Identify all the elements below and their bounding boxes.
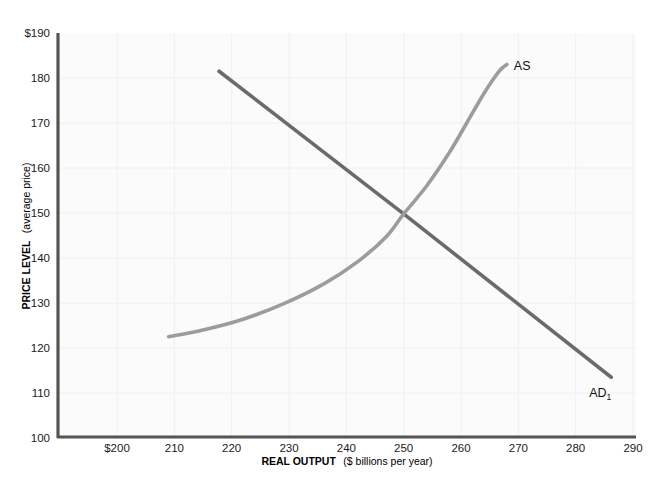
x-tick-label: 280 <box>566 442 585 454</box>
x-tick-label: 290 <box>623 442 642 454</box>
x-tick-label: 220 <box>222 442 241 454</box>
y-tick-label: 100 <box>31 432 50 444</box>
x-tick-label: 210 <box>165 442 184 454</box>
x-tick-label: 230 <box>279 442 298 454</box>
y-tick-label: 120 <box>31 342 50 354</box>
y-tick-label: 130 <box>31 297 50 309</box>
plot-area-background <box>58 33 636 438</box>
y-tick-label: 180 <box>31 72 50 84</box>
x-tick-label: $200 <box>104 442 130 454</box>
x-tick-label: 250 <box>394 442 413 454</box>
chart-figure: $200210220230240250260270280290 10011012… <box>0 0 671 492</box>
x-tick-label: 270 <box>509 442 528 454</box>
aggregate-supply-demand-chart: $200210220230240250260270280290 10011012… <box>0 0 671 492</box>
y-tick-label: 170 <box>31 117 50 129</box>
y-tick-label: 160 <box>31 162 50 174</box>
y-tick-label: 140 <box>31 252 50 264</box>
y-tick-label: 110 <box>32 387 50 399</box>
y-tick-label: 150 <box>31 207 50 219</box>
y-tick-label: $190 <box>24 27 50 39</box>
curve-label-as: AS <box>514 59 531 73</box>
x-tick-label: 260 <box>451 442 470 454</box>
